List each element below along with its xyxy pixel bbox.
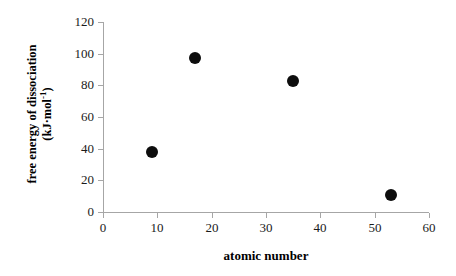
y-axis-line (103, 22, 104, 213)
x-tick-mark (103, 213, 104, 218)
y-tick-label: 60 (54, 110, 94, 123)
x-tick-mark (157, 213, 158, 218)
x-tick-mark (429, 213, 430, 218)
y-tick-label: 0 (54, 205, 94, 218)
y-tick-mark (98, 85, 103, 86)
data-point (287, 75, 299, 87)
x-tick-label: 30 (246, 221, 286, 234)
y-axis-title-line-2: (kJ·mol-1) (40, 45, 55, 184)
y-axis-unit-middot: · (40, 119, 54, 123)
data-point (189, 52, 201, 64)
y-tick-label: 120 (54, 15, 94, 28)
data-point (385, 189, 397, 201)
x-tick-mark (375, 213, 376, 218)
y-tick-mark (98, 180, 103, 181)
y-axis-unit-suffix: ) (40, 87, 54, 91)
y-axis-unit-prefix: (kJ (40, 123, 54, 140)
x-tick-mark (320, 213, 321, 218)
data-point (146, 146, 158, 158)
y-tick-mark (98, 149, 103, 150)
x-axis-title: atomic number (103, 248, 429, 264)
x-tick-mark (266, 213, 267, 218)
y-axis-unit-exponent: -1 (38, 92, 48, 100)
x-tick-label: 20 (192, 221, 232, 234)
y-axis-title-line-1: free energy of dissociation (25, 45, 40, 184)
y-tick-label: 100 (54, 47, 94, 60)
x-tick-label: 60 (409, 221, 449, 234)
y-tick-mark (98, 117, 103, 118)
x-tick-mark (212, 213, 213, 218)
y-tick-label: 80 (54, 78, 94, 91)
x-tick-label: 40 (300, 221, 340, 234)
x-tick-label: 50 (355, 221, 395, 234)
x-tick-label: 0 (83, 221, 123, 234)
x-tick-label: 10 (137, 221, 177, 234)
y-tick-mark (98, 54, 103, 55)
y-axis-unit-mid: mol (40, 99, 54, 119)
scatter-chart: free energy of dissociation (kJ·mol-1) 0… (0, 0, 456, 276)
y-tick-mark (98, 22, 103, 23)
y-tick-label: 20 (54, 173, 94, 186)
y-tick-label: 40 (54, 142, 94, 155)
